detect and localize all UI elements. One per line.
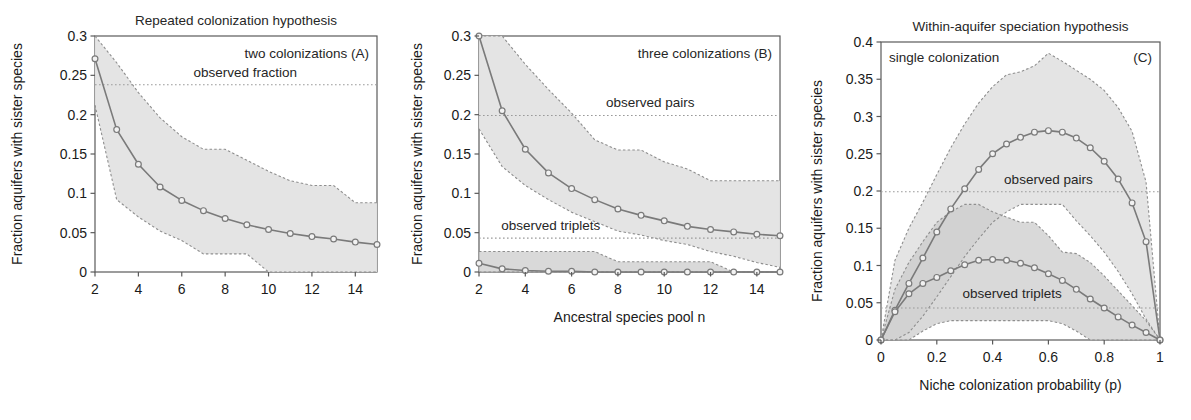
data-point: [222, 216, 228, 222]
data-point: [374, 242, 380, 248]
x-tick-label: 6: [568, 281, 576, 297]
reference-label-observed-pairs: observed pairs: [1004, 172, 1093, 187]
y-tick-label: 0.1: [452, 185, 472, 201]
y-axis-label: Fraction aquifers with sister species: [409, 43, 425, 265]
y-tick-label: 0.2: [452, 107, 472, 123]
x-tick-label: 4: [521, 281, 529, 297]
data-point: [638, 212, 644, 218]
x-tick-label: 1: [1156, 349, 1164, 365]
panel-annotation: three colonizations (B): [638, 46, 772, 61]
x-tick-label: 0.8: [1094, 349, 1114, 365]
data-point: [157, 184, 163, 190]
data-point: [1129, 322, 1135, 328]
data-point: [906, 291, 912, 297]
y-axis-label: Fraction aquifers with sister species: [9, 43, 25, 265]
data-point: [777, 233, 783, 239]
data-point: [1115, 176, 1121, 182]
x-tick-label: 10: [261, 281, 277, 297]
data-point: [179, 198, 185, 204]
data-point: [962, 186, 968, 192]
y-tick-label: 0: [79, 264, 87, 280]
data-point: [1032, 265, 1038, 271]
y-axis-label: Fraction aquifers with sister species: [809, 80, 825, 302]
data-point: [948, 206, 954, 212]
x-tick-label: 0.6: [1039, 349, 1059, 365]
x-axis-label: Niche colonization probability (p): [919, 377, 1121, 393]
data-point: [522, 146, 528, 152]
data-point: [731, 229, 737, 235]
data-point: [287, 231, 293, 237]
data-point: [1032, 129, 1038, 135]
data-point: [948, 268, 954, 274]
x-tick-label: 0.4: [983, 349, 1003, 365]
x-tick-label: 0.2: [927, 349, 947, 365]
data-point: [546, 170, 552, 176]
data-point: [1018, 134, 1024, 140]
data-point: [1004, 141, 1010, 147]
data-point: [754, 231, 760, 237]
x-tick-label: 0: [877, 349, 885, 365]
data-point: [1004, 257, 1010, 263]
data-point: [934, 275, 940, 281]
reference-label-observed-triplets: observed triplets: [963, 286, 1062, 301]
data-point: [1143, 330, 1149, 336]
x-tick-label: 6: [178, 281, 186, 297]
data-point: [906, 280, 912, 286]
data-point: [1143, 239, 1149, 245]
data-point: [1087, 145, 1093, 151]
y-tick-label: 0.2: [68, 107, 88, 123]
x-tick-label: 10: [656, 281, 672, 297]
data-point: [684, 223, 690, 229]
x-tick-label: 8: [614, 281, 622, 297]
y-tick-label: 0.15: [60, 146, 87, 162]
x-tick-label: 8: [221, 281, 229, 297]
y-tick-label: 0.1: [68, 185, 88, 201]
x-tick-label: 2: [91, 281, 99, 297]
data-point: [92, 56, 98, 62]
data-point: [731, 269, 737, 275]
y-tick-label: 0.1: [854, 258, 874, 274]
data-point: [1101, 158, 1107, 164]
data-point: [309, 234, 315, 240]
reference-label-observed-pairs: observed pairs: [606, 95, 695, 110]
data-point: [114, 127, 120, 133]
y-tick-label: 0: [865, 332, 873, 348]
data-point: [615, 206, 621, 212]
panel-title: Repeated colonization hypothesis: [135, 13, 337, 28]
panel-annotation: single colonization: [889, 50, 999, 65]
y-tick-label: 0.05: [444, 225, 471, 241]
y-tick-label: 0.3: [854, 109, 874, 125]
x-tick-label: 12: [703, 281, 719, 297]
data-point: [990, 257, 996, 263]
data-point: [1046, 128, 1052, 134]
data-point: [244, 222, 250, 228]
data-point: [592, 269, 598, 275]
reference-label-observed-fraction: observed fraction: [193, 65, 297, 80]
data-point: [499, 108, 505, 114]
panel-a: 00.050.10.150.20.250.32468101214Fraction…: [0, 0, 400, 420]
panel-b: 00.050.10.150.20.250.32468101214Fraction…: [400, 0, 800, 420]
y-tick-label: 0.3: [452, 28, 472, 44]
panel-title: Within-aquifer speciation hypothesis: [912, 19, 1128, 34]
x-axis-label: Ancestral species pool n: [554, 309, 706, 325]
data-point: [1129, 200, 1135, 206]
data-point: [976, 257, 982, 263]
data-point: [1059, 129, 1065, 135]
data-point: [777, 269, 783, 275]
data-point: [976, 166, 982, 172]
data-point: [266, 227, 272, 233]
y-tick-label: 0.25: [444, 67, 471, 83]
data-point: [962, 262, 968, 268]
figure-three-panel-chart: 00.050.10.150.20.250.32468101214Fraction…: [0, 0, 1191, 420]
reference-label-observed-triplets: observed triplets: [501, 218, 600, 233]
data-point: [684, 269, 690, 275]
y-tick-label: 0.15: [444, 146, 471, 162]
panel-annotation: two colonizations (A): [244, 46, 369, 61]
data-point: [892, 309, 898, 315]
y-tick-label: 0.2: [854, 183, 874, 199]
data-point: [135, 161, 141, 167]
data-point: [352, 239, 358, 245]
y-tick-label: 0.25: [60, 67, 87, 83]
data-point: [499, 266, 505, 272]
y-tick-label: 0.35: [846, 71, 873, 87]
